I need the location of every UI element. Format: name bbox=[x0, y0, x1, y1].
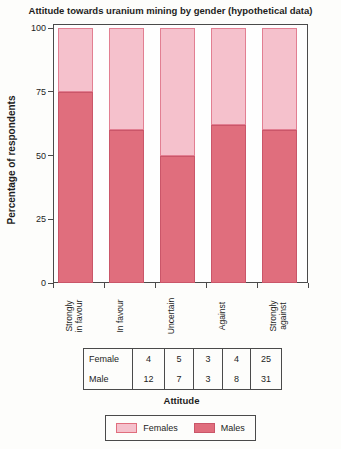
bar-segment-males bbox=[262, 130, 297, 283]
legend-item-females: Females bbox=[116, 423, 178, 433]
bar-segment-females bbox=[109, 28, 144, 130]
figure: Attitude towards uranium mining by gende… bbox=[0, 0, 341, 449]
y-tick-label: 50 bbox=[16, 150, 46, 162]
chart-title: Attitude towards uranium mining by gende… bbox=[0, 5, 341, 16]
table-cell: 31 bbox=[251, 369, 281, 389]
y-axis-tick bbox=[48, 219, 53, 220]
y-axis-tick bbox=[48, 91, 53, 92]
x-axis-tick bbox=[257, 283, 258, 288]
legend-item-males: Males bbox=[194, 423, 245, 433]
table-cell: 8 bbox=[223, 369, 251, 389]
x-axis-tick bbox=[206, 283, 207, 288]
x-axis-tick bbox=[308, 283, 309, 288]
table-row-label: Female bbox=[84, 349, 133, 369]
y-axis-tick bbox=[48, 155, 53, 156]
legend-label-females: Females bbox=[143, 423, 178, 433]
x-axis-tick bbox=[155, 283, 156, 288]
bar-segment-females bbox=[160, 28, 195, 156]
table-cell: 5 bbox=[165, 349, 194, 369]
bar-segment-males bbox=[58, 92, 93, 283]
table-cell: 4 bbox=[223, 349, 251, 369]
table-cell: 4 bbox=[133, 349, 165, 369]
y-tick-label: 25 bbox=[16, 213, 46, 225]
bar-segment-males bbox=[109, 130, 144, 283]
table-row-label: Male bbox=[84, 369, 133, 389]
bar-segment-females bbox=[58, 28, 93, 92]
bar-segment-females bbox=[262, 28, 297, 130]
x-axis-tick bbox=[104, 283, 105, 288]
x-category-label: In favour bbox=[115, 281, 139, 351]
bar-segment-males bbox=[211, 125, 246, 283]
table-cell: 3 bbox=[194, 349, 223, 369]
bar-segment-males bbox=[160, 156, 195, 284]
x-category-label: Uncertain bbox=[166, 281, 190, 351]
table-cell: 3 bbox=[194, 369, 223, 389]
males-swatch-icon bbox=[194, 423, 215, 433]
x-category-label: Strongly against bbox=[268, 281, 292, 351]
table-cell: 7 bbox=[165, 369, 194, 389]
y-tick-label: 0 bbox=[16, 277, 46, 289]
y-tick-label: 75 bbox=[16, 86, 46, 98]
x-category-label: Against bbox=[217, 281, 241, 351]
legend: Females Males bbox=[105, 415, 256, 441]
y-axis-tick bbox=[48, 28, 53, 29]
table-cell: 25 bbox=[251, 349, 281, 369]
y-tick-label: 100 bbox=[16, 22, 46, 34]
legend-label-males: Males bbox=[221, 423, 245, 433]
x-axis-title: Attitude bbox=[83, 395, 280, 406]
data-table: Female453425Male1273831 bbox=[83, 348, 282, 390]
x-category-label: Strongly in favour bbox=[64, 281, 88, 351]
bar-segment-females bbox=[211, 28, 246, 125]
table-cell: 12 bbox=[133, 369, 165, 389]
females-swatch-icon bbox=[116, 423, 137, 433]
x-axis-tick bbox=[53, 283, 54, 288]
